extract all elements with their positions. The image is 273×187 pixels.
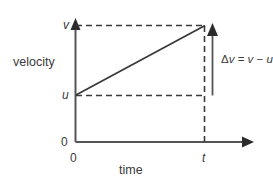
x-tick-label-elapsed-time: t bbox=[202, 152, 205, 164]
x-axis-arrowhead-icon bbox=[242, 137, 254, 148]
x-axis-title: time bbox=[119, 164, 143, 177]
y-tick-label-initial-velocity: u bbox=[62, 89, 69, 101]
initial-velocity-symbol: u bbox=[266, 53, 272, 65]
velocity-time-graph: velocity time v u 0 0 t Δv = v − u bbox=[0, 0, 273, 187]
equals-symbol: = bbox=[234, 53, 247, 65]
delta-symbol: Δ bbox=[221, 53, 229, 65]
y-axis-arrowhead-icon bbox=[71, 18, 81, 30]
minus-symbol: − bbox=[253, 53, 266, 65]
x-axis-origin-label: 0 bbox=[70, 152, 77, 164]
delta-v-arrowhead-icon bbox=[207, 23, 218, 36]
y-axis-title: velocity bbox=[13, 56, 55, 69]
y-tick-label-final-velocity: v bbox=[63, 19, 69, 31]
delta-v-annotation-label: Δv = v − u bbox=[221, 54, 273, 66]
graph-canvas bbox=[0, 0, 273, 187]
y-axis-origin-label: 0 bbox=[61, 136, 68, 148]
velocity-data-line bbox=[76, 26, 205, 96]
